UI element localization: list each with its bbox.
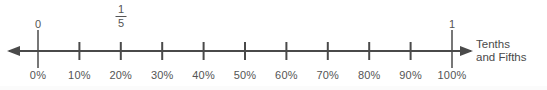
tick-label-0: 0%	[30, 70, 46, 81]
axis-value-zero: 0	[35, 19, 41, 30]
bottom-edge-band	[0, 86, 547, 90]
axis-value-one: 1	[449, 19, 455, 30]
number-line-figure: 0 1 1 5 0% 10% 20% 30% 40% 50% 60% 70% 8…	[0, 0, 547, 90]
tick-label-80: 80%	[358, 70, 381, 81]
axis-caption: Tenths and Fifths	[476, 38, 527, 64]
right-arrowhead-icon	[460, 46, 473, 56]
tick-label-70: 70%	[316, 70, 339, 81]
tick-label-20: 20%	[109, 70, 132, 81]
tick-label-100: 100%	[438, 70, 467, 81]
fraction-one-fifth: 1 5	[116, 4, 127, 29]
tick-label-40: 40%	[192, 70, 215, 81]
axis-caption-line-2: and Fifths	[476, 51, 527, 64]
tick-label-10: 10%	[68, 70, 91, 81]
left-arrowhead-icon	[7, 46, 20, 56]
fraction-denominator: 5	[117, 17, 125, 29]
axis-caption-line-1: Tenths	[476, 38, 527, 51]
fraction-numerator: 1	[117, 4, 125, 16]
tick-label-50: 50%	[234, 70, 257, 81]
tick-label-60: 60%	[275, 70, 298, 81]
tick-label-90: 90%	[399, 70, 422, 81]
tick-label-30: 30%	[151, 70, 174, 81]
